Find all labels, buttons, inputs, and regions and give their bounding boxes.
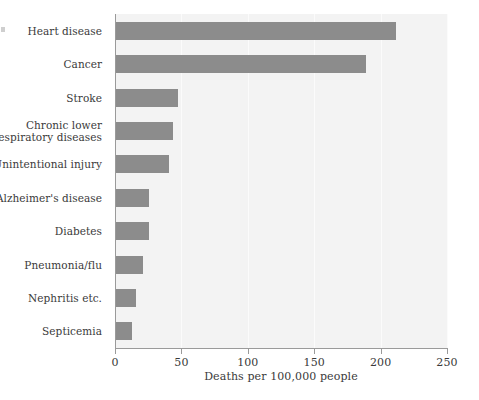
category-label-line: Pneumonia/flu: [0, 259, 102, 271]
bar: [116, 89, 178, 107]
category-label: Chronic lowerrespiratory diseases: [0, 119, 110, 143]
bar: [116, 122, 173, 140]
gridline: [447, 14, 448, 348]
category-label: Alzheimer's disease: [0, 192, 110, 204]
category-label-line: respiratory diseases: [0, 131, 102, 143]
x-axis-tick-label: 150: [304, 356, 325, 369]
category-label: Nephritis etc.: [0, 292, 110, 304]
category-label: Diabetes: [0, 225, 110, 237]
x-axis-tick: [248, 349, 249, 354]
category-label-line: Stroke: [0, 92, 102, 104]
bar: [116, 189, 149, 207]
x-axis-tick: [115, 349, 116, 354]
bar: [116, 222, 149, 240]
x-axis-title: Deaths per 100,000 people: [115, 370, 447, 383]
category-label: Heart disease: [0, 25, 110, 37]
category-label: Cancer: [0, 58, 110, 70]
category-label: Pneumonia/flu: [0, 259, 110, 271]
category-label: Unintentional injury: [0, 158, 110, 170]
category-label-line: Heart disease: [0, 25, 102, 37]
x-axis-tick-label: 200: [370, 356, 391, 369]
category-label-line: Nephritis etc.: [0, 292, 102, 304]
category-label-line: Chronic lower: [0, 119, 102, 131]
bar: [116, 155, 169, 173]
x-axis-tick-label: 50: [174, 356, 188, 369]
bar: [116, 22, 396, 40]
x-axis-tick: [314, 349, 315, 354]
bar: [116, 55, 366, 73]
category-label-line: Cancer: [0, 58, 102, 70]
x-axis-tick: [381, 349, 382, 354]
y-axis-category-labels: Heart diseaseCancerStrokeChronic lowerre…: [0, 14, 110, 348]
category-label-line: Alzheimer's disease: [0, 192, 102, 204]
bar: [116, 256, 143, 274]
x-axis-tick: [447, 349, 448, 354]
bar: [116, 322, 132, 340]
x-axis-tick-label: 250: [436, 356, 457, 369]
x-axis-tick-label: 0: [111, 356, 118, 369]
x-axis-line: [115, 348, 448, 349]
bars-layer: [116, 14, 447, 348]
category-label-line: Diabetes: [0, 225, 102, 237]
category-label-line: Septicemia: [0, 325, 102, 337]
category-label-line: Unintentional injury: [0, 158, 102, 170]
category-label: Septicemia: [0, 325, 110, 337]
bar: [116, 289, 136, 307]
bar-chart: 050100150200250 Heart diseaseCancerStrok…: [0, 0, 479, 400]
x-axis-tick: [181, 349, 182, 354]
category-label: Stroke: [0, 92, 110, 104]
x-axis-tick-label: 100: [237, 356, 258, 369]
